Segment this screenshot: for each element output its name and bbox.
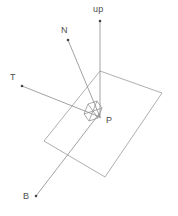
diagram-canvas — [0, 0, 178, 216]
surface-plane — [44, 71, 162, 177]
tangent-vector-label: T — [10, 73, 16, 82]
tangent-frame-cube — [84, 101, 102, 121]
bitangent-vector-line — [36, 114, 99, 196]
normal-vector-label: N — [61, 26, 68, 35]
point-p-label: P — [106, 116, 112, 125]
up-vector-label: up — [93, 5, 103, 14]
tangent-vector-tip-dot — [21, 85, 24, 88]
tbn-frame-diagram: up N T P B — [0, 0, 178, 216]
bitangent-vector-label: B — [23, 192, 29, 201]
normal-vector-tip-dot — [67, 39, 70, 42]
bitangent-vector-tip-dot — [35, 195, 38, 198]
up-vector-tip-dot — [99, 20, 102, 23]
